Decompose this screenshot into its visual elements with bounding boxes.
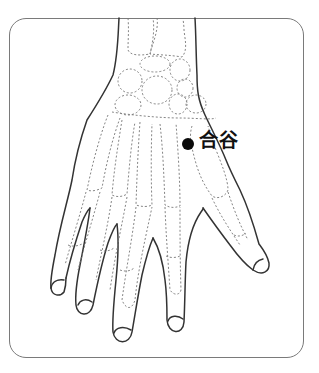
hand-outline <box>51 18 269 342</box>
acupoint-label: 合谷 <box>199 131 239 150</box>
bone-outlines <box>65 18 248 308</box>
hand-illustration <box>0 0 319 373</box>
acupoint-marker <box>182 138 194 150</box>
